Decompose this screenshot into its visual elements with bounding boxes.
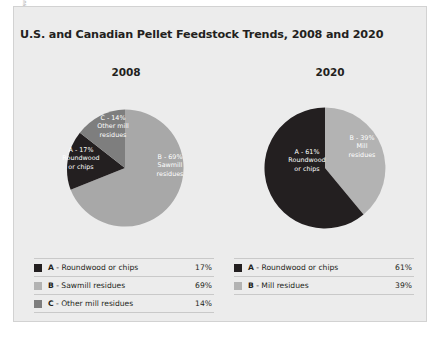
pie-chart-2020 (262, 105, 388, 231)
legend-2020-label-a: A - Roundwood or chips (248, 263, 388, 272)
legend-2008-swatch-c (34, 300, 42, 308)
pie-chart-2008 (64, 107, 186, 229)
legend-2008-row: A - Roundwood or chips17% (34, 258, 214, 277)
legend-2020-label-b: B - Mill residues (248, 281, 388, 290)
legend-2020-row: A - Roundwood or chips61% (234, 258, 414, 277)
legend-2020-pct-a: 61% (388, 263, 414, 272)
legend-2008-swatch-b (34, 282, 42, 290)
legend-2008-label-c: C - Other mill residues (48, 299, 188, 308)
legend-2008: A - Roundwood or chips17%B - Sawmill res… (34, 258, 214, 313)
legend-2008-pct-c: 14% (188, 299, 214, 308)
legend-2020: A - Roundwood or chips61%B - Mill residu… (234, 258, 414, 295)
legend-2020-swatch-b (234, 282, 242, 290)
legend-2008-label-b: B - Sawmill residues (48, 281, 188, 290)
legend-2008-pct-b: 69% (188, 281, 214, 290)
legend-2020-pct-b: 39% (388, 281, 414, 290)
legend-2008-row: B - Sawmill residues69% (34, 277, 214, 295)
legend-2008-row: C - Other mill residues14% (34, 295, 214, 313)
page-title: U.S. and Canadian Pellet Feedstock Trend… (20, 28, 383, 41)
legend-2008-pct-a: 17% (188, 263, 214, 272)
legend-2020-swatch-a (234, 264, 242, 272)
chart-figure: SOURCE: SPELTER AND TOTH (2009); FORISK … (0, 0, 434, 337)
legend-2020-row: B - Mill residues39% (234, 277, 414, 295)
legend-2008-label-a: A - Roundwood or chips (48, 263, 188, 272)
legend-2008-swatch-a (34, 264, 42, 272)
year-label-2020: 2020 (302, 66, 358, 78)
year-label-2008: 2008 (98, 66, 154, 78)
